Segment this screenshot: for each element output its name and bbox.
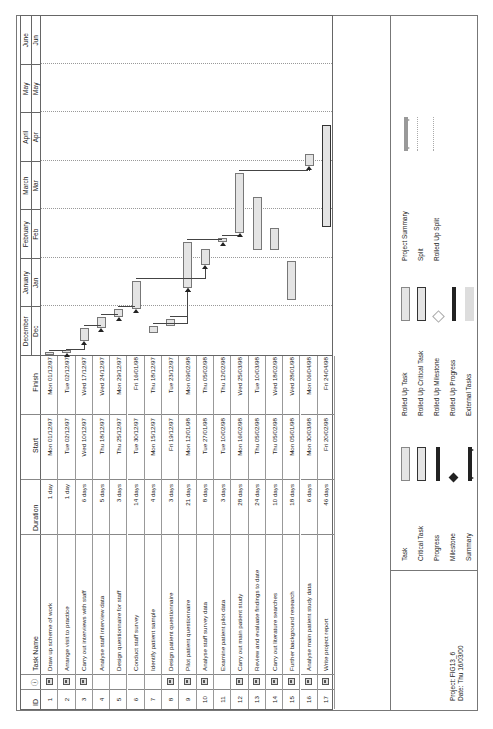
- task-finish[interactable]: Tue 23/12/97: [162, 354, 178, 414]
- task-start[interactable]: Tue 10/02/98: [214, 414, 230, 479]
- task-name[interactable]: Analyse staff survey data: [197, 534, 213, 674]
- table-row[interactable]: 12Carry out main patient study28 daysMon…: [231, 356, 248, 709]
- table-row[interactable]: 17Write project report46 daysFri 20/02/9…: [318, 356, 335, 709]
- table-row[interactable]: 15Further background research18 daysMon …: [283, 356, 300, 709]
- task-duration[interactable]: 18 days: [283, 479, 299, 534]
- table-row[interactable]: 6Conduct staff survey14 daysTue 30/12/97…: [128, 356, 145, 709]
- note-icon[interactable]: [322, 679, 329, 686]
- task-name[interactable]: Design questionnaire for staff: [110, 534, 126, 674]
- task-name[interactable]: Draw up scheme of work: [41, 534, 57, 674]
- task-start[interactable]: Mon 15/12/97: [145, 414, 161, 479]
- task-name[interactable]: Analyse main patient study data: [301, 534, 317, 674]
- task-finish[interactable]: Wed 28/01/98: [283, 354, 299, 414]
- task-duration[interactable]: 24 days: [249, 479, 265, 534]
- task-finish[interactable]: Thu 05/02/98: [197, 354, 213, 414]
- task-bar[interactable]: [322, 125, 331, 226]
- task-duration[interactable]: 4 days: [145, 479, 161, 534]
- table-row[interactable]: 1Draw up scheme of work1 dayMon 01/12/97…: [41, 356, 58, 709]
- table-row[interactable]: 5Design questionnaire for staff3 daysThu…: [110, 356, 127, 709]
- task-name[interactable]: Analyse staff interview data: [93, 534, 109, 674]
- task-bar[interactable]: [287, 262, 296, 300]
- task-start[interactable]: Mon 30/03/98: [301, 414, 317, 479]
- note-icon[interactable]: [201, 679, 208, 686]
- task-duration[interactable]: 46 days: [318, 479, 334, 534]
- task-finish[interactable]: Tue 02/12/97: [58, 354, 74, 414]
- task-bar[interactable]: [305, 154, 314, 167]
- task-bar[interactable]: [201, 249, 210, 265]
- task-start[interactable]: Tue 27/01/98: [197, 414, 213, 479]
- task-duration[interactable]: 6 days: [76, 479, 92, 534]
- note-icon[interactable]: [46, 679, 53, 686]
- task-finish[interactable]: Fri 24/04/98: [318, 354, 334, 414]
- note-icon[interactable]: [184, 679, 191, 686]
- task-duration[interactable]: 6 days: [301, 479, 317, 534]
- note-icon[interactable]: [305, 679, 312, 686]
- note-icon[interactable]: [167, 679, 174, 686]
- task-name[interactable]: Write project report: [318, 534, 334, 674]
- task-name[interactable]: Carry out literature searches: [266, 534, 282, 674]
- task-start[interactable]: Fri 20/02/98: [318, 414, 334, 479]
- task-start[interactable]: Thu 18/12/97: [93, 414, 109, 479]
- task-name[interactable]: Arrange visit to practice: [58, 534, 74, 674]
- table-row[interactable]: 4Analyse staff interview data5 daysThu 1…: [93, 356, 110, 709]
- task-start[interactable]: Tue 02/12/97: [58, 414, 74, 479]
- note-icon[interactable]: [80, 679, 87, 686]
- task-bar[interactable]: [183, 242, 192, 288]
- table-row[interactable]: 9Pilot patient questionnaire21 daysMon 1…: [179, 356, 196, 709]
- task-duration[interactable]: 3 days: [214, 479, 230, 534]
- task-start[interactable]: Thu 25/12/97: [110, 414, 126, 479]
- table-row[interactable]: 16Analyse main patient study data6 daysM…: [301, 356, 318, 709]
- table-row[interactable]: 10Analyse staff survey data8 daysTue 27/…: [197, 356, 214, 709]
- task-duration[interactable]: 5 days: [93, 479, 109, 534]
- task-duration[interactable]: 14 days: [128, 479, 144, 534]
- task-name[interactable]: Conduct staff survey: [128, 534, 144, 674]
- task-bar[interactable]: [80, 328, 89, 341]
- task-name[interactable]: Further background research: [283, 534, 299, 674]
- table-row[interactable]: 3Carry out interviews with staff6 daysWe…: [76, 356, 93, 709]
- table-row[interactable]: 7Identify patient sample4 daysMon 15/12/…: [145, 356, 162, 709]
- note-icon[interactable]: [253, 679, 260, 686]
- task-finish[interactable]: Wed 17/12/97: [76, 354, 92, 414]
- task-duration[interactable]: 3 days: [110, 479, 126, 534]
- task-duration[interactable]: 1 day: [58, 479, 74, 534]
- table-row[interactable]: 11Examine patient pilot data3 daysTue 10…: [214, 356, 231, 709]
- table-row[interactable]: 2Arrange visit to practice1 dayTue 02/12…: [58, 356, 75, 709]
- note-icon[interactable]: [236, 679, 243, 686]
- task-duration[interactable]: 28 days: [231, 479, 247, 534]
- task-name[interactable]: Review and evaluate findings to date: [249, 534, 265, 674]
- task-bar[interactable]: [132, 281, 141, 310]
- table-row[interactable]: 14Carry out literature searches10 daysTh…: [266, 356, 283, 709]
- task-bar[interactable]: [270, 228, 279, 250]
- task-name[interactable]: Identify patient sample: [145, 534, 161, 674]
- task-bar[interactable]: [45, 352, 54, 355]
- task-name[interactable]: Carry out interviews with staff: [76, 534, 92, 674]
- task-finish[interactable]: Mon 01/12/97: [41, 354, 57, 414]
- note-icon[interactable]: [63, 679, 70, 686]
- task-start[interactable]: Thu 05/02/98: [266, 414, 282, 479]
- task-bar[interactable]: [97, 317, 106, 328]
- task-duration[interactable]: 8 days: [197, 479, 213, 534]
- task-duration[interactable]: 21 days: [179, 479, 195, 534]
- task-bar[interactable]: [253, 197, 262, 251]
- table-row[interactable]: 13Review and evaluate findings to date24…: [249, 356, 266, 709]
- task-start[interactable]: Thu 05/02/98: [249, 414, 265, 479]
- task-start[interactable]: Mon 16/02/98: [231, 414, 247, 479]
- task-name[interactable]: Pilot patient questionnaire: [179, 534, 195, 674]
- task-start[interactable]: Mon 12/01/98: [179, 414, 195, 479]
- task-finish[interactable]: Thu 12/02/98: [214, 354, 230, 414]
- task-start[interactable]: Wed 10/12/97: [76, 414, 92, 479]
- task-duration[interactable]: 1 day: [41, 479, 57, 534]
- task-finish[interactable]: Mon 06/04/98: [301, 354, 317, 414]
- task-finish[interactable]: Wed 18/02/98: [266, 354, 282, 414]
- task-bar[interactable]: [149, 326, 158, 332]
- task-duration[interactable]: 3 days: [162, 479, 178, 534]
- table-row[interactable]: 8Design patient questionnaire3 daysFri 1…: [162, 356, 179, 709]
- task-duration[interactable]: 10 days: [266, 479, 282, 534]
- task-finish[interactable]: Mon 29/12/97: [110, 354, 126, 414]
- task-finish[interactable]: Wed 25/03/98: [231, 354, 247, 414]
- task-start[interactable]: Mon 05/01/98: [283, 414, 299, 479]
- note-icon[interactable]: [271, 679, 278, 686]
- task-bar[interactable]: [235, 173, 244, 233]
- task-finish[interactable]: Tue 10/03/98: [249, 354, 265, 414]
- task-start[interactable]: Tue 30/12/97: [128, 414, 144, 479]
